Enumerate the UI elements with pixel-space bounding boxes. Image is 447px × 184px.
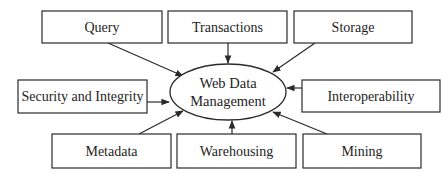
node-warehousing: Warehousing <box>177 134 296 168</box>
node-metadata-label: Metadata <box>85 144 138 159</box>
center-node: Web Data Management <box>170 64 286 120</box>
node-query-label: Query <box>85 20 120 35</box>
node-mining: Mining <box>303 134 421 168</box>
web-data-management-diagram: Query Transactions Storage Security and … <box>0 0 447 184</box>
edge-mining-to-center <box>273 112 327 134</box>
node-metadata: Metadata <box>52 134 171 168</box>
edge-metadata-to-center <box>139 111 183 134</box>
node-interoperability: Interoperability <box>302 80 440 112</box>
node-transactions-label: Transactions <box>192 20 263 35</box>
node-interoperability-label: Interoperability <box>327 89 414 104</box>
edge-storage-to-center <box>273 43 315 72</box>
node-security-label: Security and Integrity <box>21 89 143 104</box>
node-mining-label: Mining <box>341 144 382 159</box>
edge-query-to-center <box>108 43 183 76</box>
node-query: Query <box>42 11 162 43</box>
center-label-line1: Web Data <box>199 75 257 91</box>
node-storage-label: Storage <box>332 20 375 35</box>
center-label-line2: Management <box>190 93 266 109</box>
node-warehousing-label: Warehousing <box>200 144 274 159</box>
node-transactions: Transactions <box>168 11 287 43</box>
node-security-and-integrity: Security and Integrity <box>18 80 147 113</box>
node-storage: Storage <box>294 11 412 43</box>
